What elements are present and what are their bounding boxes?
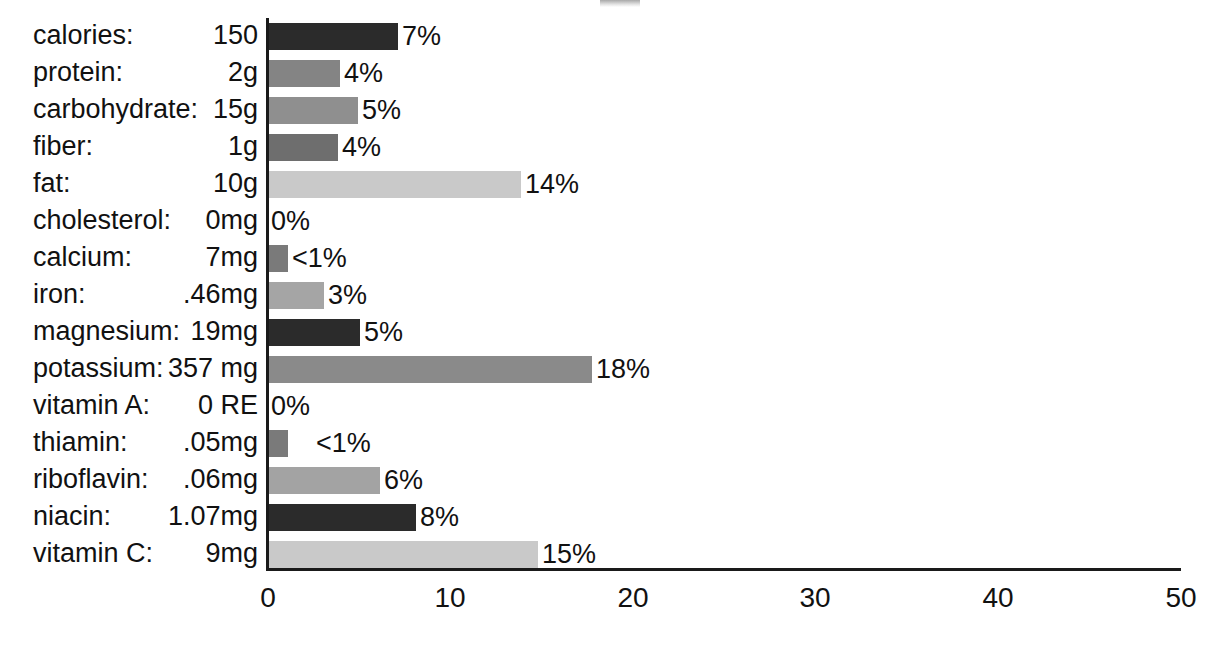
bar-container: 0% — [268, 208, 310, 235]
bar-container: 7% — [268, 23, 441, 50]
bar-container: 4% — [268, 134, 381, 161]
bar-value-label: 8% — [416, 504, 459, 531]
x-tick-label: 20 — [593, 578, 673, 618]
bar — [268, 430, 288, 457]
chart-row: riboflavin:.06mg6% — [0, 462, 1219, 499]
bar-container: 8% — [268, 504, 459, 531]
x-axis-line — [268, 568, 1181, 571]
chart-row: iron:.46mg3% — [0, 277, 1219, 314]
x-tick-label: 40 — [958, 578, 1038, 618]
nutrient-amount: 0 RE — [60, 388, 258, 425]
x-axis-tick-labels: 01020304050 — [0, 578, 1219, 622]
bar-container: 5% — [268, 97, 401, 124]
bar — [268, 23, 398, 50]
chart-row: magnesium:19mg5% — [0, 314, 1219, 351]
bar-container: 4% — [268, 60, 383, 87]
nutrient-amount: 7mg — [60, 240, 258, 277]
bar-value-label: 5% — [360, 319, 403, 346]
chart-row: calories:1507% — [0, 18, 1219, 55]
bar-value-label: 0% — [268, 208, 310, 235]
bar-value-label: 5% — [358, 97, 401, 124]
bar-value-label: 14% — [521, 171, 579, 198]
nutrient-amount: 150 — [60, 18, 258, 55]
bar-container: 6% — [268, 467, 423, 494]
nutrient-amount: .05mg — [60, 425, 258, 462]
nutrient-amount: 15g — [60, 92, 258, 129]
bar-value-label: 7% — [398, 23, 441, 50]
chart-rows: calories:1507%protein:2g4%carbohydrate:1… — [0, 18, 1219, 573]
chart-row: carbohydrate:15g5% — [0, 92, 1219, 129]
bar — [268, 319, 360, 346]
bar — [268, 60, 340, 87]
chart-row: niacin:1.07mg8% — [0, 499, 1219, 536]
nutrient-amount: .46mg — [60, 277, 258, 314]
chart-row: fat:10g14% — [0, 166, 1219, 203]
nutrient-amount: .06mg — [60, 462, 258, 499]
bar-container: 5% — [268, 319, 403, 346]
bar — [268, 504, 416, 531]
bar — [268, 134, 338, 161]
bar — [268, 282, 324, 309]
chart-row: thiamin:.05mg<1% — [0, 425, 1219, 462]
nutrient-amount: 357 mg — [60, 351, 258, 388]
bar — [268, 467, 380, 494]
bar-value-label: <1% — [288, 430, 371, 457]
bar-container: 3% — [268, 282, 367, 309]
x-tick-label: 0 — [228, 578, 308, 618]
chart-row: vitamin A:0 RE0% — [0, 388, 1219, 425]
chart-row: cholesterol:0mg0% — [0, 203, 1219, 240]
chart-row: potassium:357 mg18% — [0, 351, 1219, 388]
bar — [268, 97, 358, 124]
chart-row: fiber:1g4% — [0, 129, 1219, 166]
bar-value-label: 4% — [340, 60, 383, 87]
chart-row: calcium:7mg<1% — [0, 240, 1219, 277]
bar-value-label: <1% — [288, 245, 347, 272]
cropped-title-residue — [600, 0, 640, 7]
bar-container: 14% — [268, 171, 579, 198]
bar-container: <1% — [268, 245, 347, 272]
bar-value-label: 6% — [380, 467, 423, 494]
x-tick-label: 10 — [410, 578, 490, 618]
nutrient-amount: 1g — [60, 129, 258, 166]
bar — [268, 541, 538, 568]
bar-container: 0% — [268, 393, 310, 420]
chart-row: protein:2g4% — [0, 55, 1219, 92]
bar-value-label: 18% — [592, 356, 650, 383]
x-tick-label: 50 — [1141, 578, 1219, 618]
bar-value-label: 3% — [324, 282, 367, 309]
nutrient-amount: 1.07mg — [60, 499, 258, 536]
nutrient-amount: 2g — [60, 55, 258, 92]
bar — [268, 356, 592, 383]
bar-container: <1% — [268, 430, 371, 457]
nutrient-amount: 9mg — [60, 536, 258, 573]
nutrient-amount: 19mg — [60, 314, 258, 351]
nutrient-amount: 0mg — [60, 203, 258, 240]
bar-value-label: 4% — [338, 134, 381, 161]
bar-container: 15% — [268, 541, 596, 568]
y-axis-line — [266, 18, 269, 571]
bar-value-label: 15% — [538, 541, 596, 568]
bar — [268, 171, 521, 198]
nutrition-bar-chart: calories:1507%protein:2g4%carbohydrate:1… — [0, 0, 1219, 647]
bar-container: 18% — [268, 356, 650, 383]
x-tick-label: 30 — [775, 578, 855, 618]
bar — [268, 245, 288, 272]
bar-value-label: 0% — [268, 393, 310, 420]
nutrient-amount: 10g — [60, 166, 258, 203]
